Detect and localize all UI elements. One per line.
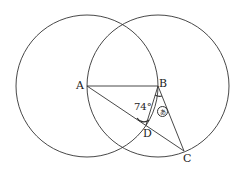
point-label-d: D bbox=[143, 128, 152, 139]
point-label-b: B bbox=[159, 78, 167, 89]
angle-label-74: 74° bbox=[134, 102, 152, 112]
unknown-angle-marker: あ bbox=[157, 106, 168, 117]
point-label-a: A bbox=[76, 80, 84, 91]
geometry-diagram: A B C D 74° あ bbox=[0, 0, 238, 171]
angle-arc-b bbox=[155, 95, 162, 96]
diagram-canvas bbox=[0, 0, 238, 171]
segment-ac bbox=[87, 86, 184, 151]
point-label-c: C bbox=[183, 153, 191, 164]
